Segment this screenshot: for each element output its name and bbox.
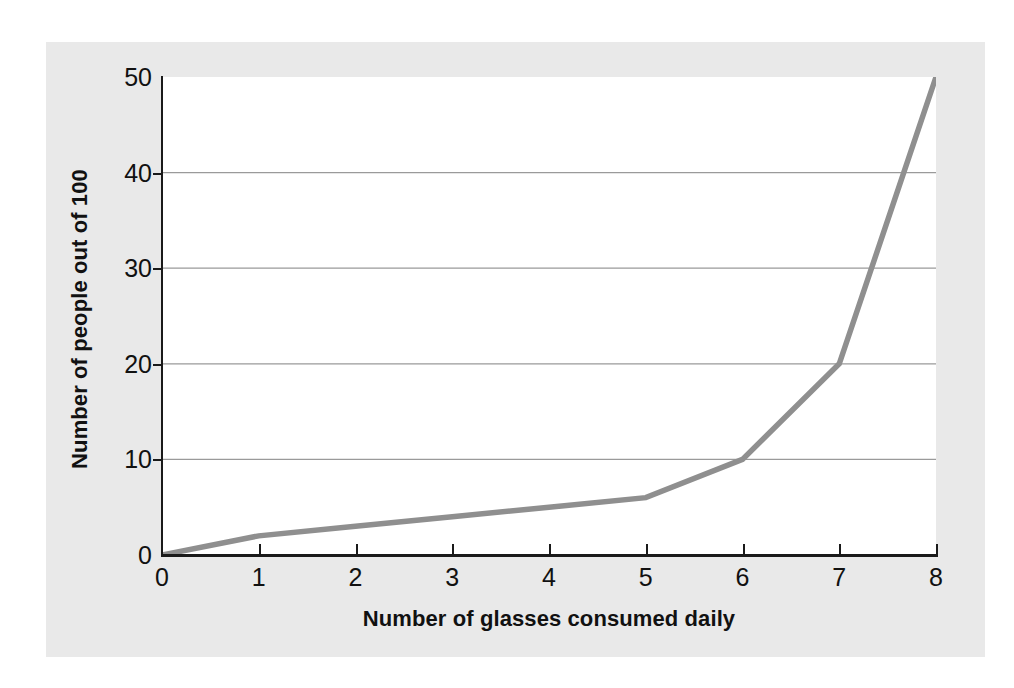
y-tick-label-30: 30 [106,256,152,281]
y-tick-mark-30 [153,268,162,270]
x-tick-label-5: 5 [626,565,666,590]
y-tick-mark-10 [153,459,162,461]
y-tick-label-20: 20 [106,352,152,377]
x-tick-label-3: 3 [432,565,472,590]
x-tick-mark-5 [646,544,648,555]
x-tick-label-6: 6 [723,565,763,590]
x-tick-mark-4 [549,544,551,555]
figure-root: 01020304050 012345678 Number of glasses … [0,0,1014,688]
y-tick-label-50: 50 [106,65,152,90]
x-tick-mark-3 [452,544,454,555]
x-axis-tick-labels: 012345678 [0,565,1014,599]
x-tick-mark-1 [259,544,261,555]
x-tick-label-2: 2 [336,565,376,590]
x-tick-label-8: 8 [916,565,956,590]
data-line-series [162,77,936,555]
x-tick-mark-7 [839,544,841,555]
y-axis-line [161,76,163,557]
y-tick-label-40: 40 [106,161,152,186]
plot-svg [162,77,936,555]
x-tick-label-4: 4 [529,565,569,590]
x-tick-mark-2 [356,544,358,555]
x-tick-label-1: 1 [239,565,279,590]
x-tick-label-0: 0 [142,565,182,590]
y-tick-mark-20 [153,364,162,366]
y-tick-mark-40 [153,173,162,175]
x-axis-title: Number of glasses consumed daily [162,606,936,632]
plot-area [162,77,936,555]
gridlines-group [162,173,936,460]
y-axis-title: Number of people out of 100 [67,79,93,559]
y-tick-label-10: 10 [106,447,152,472]
x-tick-mark-6 [743,544,745,555]
x-tick-label-7: 7 [819,565,859,590]
x-tick-mark-8 [936,544,938,555]
